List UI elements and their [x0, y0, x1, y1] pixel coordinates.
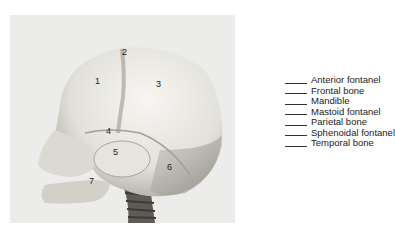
- answer-blank[interactable]: [285, 135, 307, 136]
- label-4: 4: [106, 127, 111, 136]
- label-1: 1: [95, 77, 100, 86]
- answer-blank[interactable]: [285, 146, 307, 147]
- answer-legend: Anterior fontanel Frontal bone Mandible …: [285, 74, 395, 148]
- legend-item: Mandible: [285, 95, 395, 106]
- answer-blank[interactable]: [285, 125, 307, 126]
- legend-item: Frontal bone: [285, 85, 395, 96]
- label-7: 7: [89, 177, 94, 186]
- legend-item: Sphenoidal fontanel: [285, 127, 395, 138]
- answer-blank[interactable]: [285, 83, 307, 84]
- legend-item: Mastoid fontanel: [285, 106, 395, 117]
- legend-item: Anterior fontanel: [285, 74, 395, 85]
- answer-blank[interactable]: [285, 93, 307, 94]
- legend-item: Parietal bone: [285, 116, 395, 127]
- legend-item: Temporal bone: [285, 137, 395, 148]
- answer-blank[interactable]: [285, 104, 307, 105]
- label-3: 3: [156, 80, 161, 89]
- label-5: 5: [113, 148, 118, 157]
- answer-blank[interactable]: [285, 114, 307, 115]
- label-6: 6: [167, 163, 172, 172]
- label-2: 2: [122, 48, 127, 57]
